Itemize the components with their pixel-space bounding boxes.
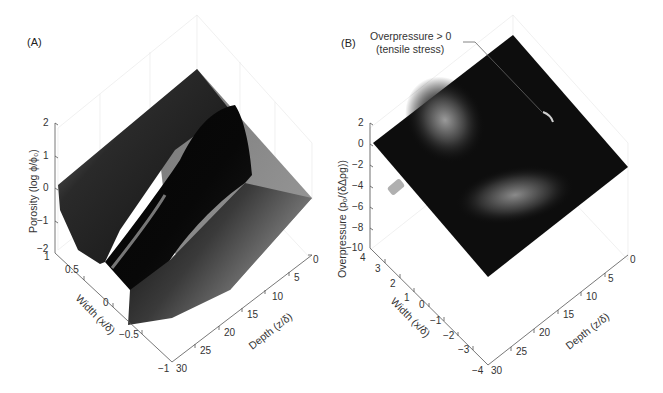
width-tick-b: −2 <box>443 331 454 341</box>
width-tick-a: −0.5 <box>119 330 139 340</box>
z-tick-b: −6 <box>352 202 363 212</box>
width-tick-a: 1 <box>44 252 50 262</box>
width-tick-a: 0.5 <box>65 265 79 275</box>
panel-b-plot <box>330 0 663 393</box>
overpressure-surface <box>373 35 628 277</box>
depth-tick-b: 25 <box>516 347 527 357</box>
width-tick-b: −3 <box>458 345 469 355</box>
width-tick-a: −1 <box>158 364 169 374</box>
depth-tick-b: 20 <box>539 328 550 338</box>
depth-tick-a: 0 <box>313 255 319 265</box>
z-tick-b: 2 <box>358 118 364 128</box>
panel-b-tag: (B) <box>341 37 356 49</box>
width-tick-b: −1 <box>430 316 441 326</box>
panel-a-porosity: (A) Porosity (log ϕ/ϕ₀) 2 1 0 −1 −2 1 0.… <box>0 0 330 393</box>
width-tick-b: 0 <box>419 300 425 310</box>
depth-tick-a: 5 <box>294 273 300 283</box>
z-tick-a: 1 <box>43 151 49 161</box>
annotation-text-line1: Overpressure > 0 <box>370 30 451 42</box>
z-tick-a: 0 <box>43 183 49 193</box>
depth-tick-a: 15 <box>247 310 258 320</box>
z-tick-b: −2 <box>352 160 363 170</box>
z-tick-b: −8 <box>352 223 363 233</box>
annotation-text-line2: (tensile stress) <box>376 43 444 55</box>
z-axis-label-b: Overpressure (pₒ/(δΔρg)) <box>336 160 348 278</box>
panel-a-tag: (A) <box>27 36 42 48</box>
depth-tick-a: 20 <box>224 328 235 338</box>
width-tick-b: −4 <box>472 366 483 376</box>
width-tick-b: 2 <box>390 279 396 289</box>
ridge-highlight-b <box>387 178 406 196</box>
depth-tick-b: 10 <box>586 292 597 302</box>
z-tick-b: −4 <box>352 181 363 191</box>
z-tick-b: 0 <box>358 139 364 149</box>
width-tick-b: 1 <box>404 293 410 303</box>
depth-tick-b: 30 <box>491 366 502 376</box>
width-tick-b: 3 <box>375 264 381 274</box>
z-tick-a: 2 <box>43 118 49 128</box>
width-tick-b: 4 <box>360 253 366 263</box>
width-tick-a: 0 <box>103 298 109 308</box>
depth-tick-a: 10 <box>272 292 283 302</box>
depth-tick-a: 30 <box>176 364 187 374</box>
panel-b-overpressure: (B) Overpressure > 0 (tensile stress) Ov… <box>330 0 663 393</box>
depth-tick-b: 15 <box>563 310 574 320</box>
depth-tick-a: 25 <box>200 346 211 356</box>
panel-a-plot <box>0 0 330 393</box>
depth-tick-b: 0 <box>630 255 636 265</box>
z-tick-a: −1 <box>37 216 48 226</box>
depth-tick-b: 5 <box>608 274 614 284</box>
